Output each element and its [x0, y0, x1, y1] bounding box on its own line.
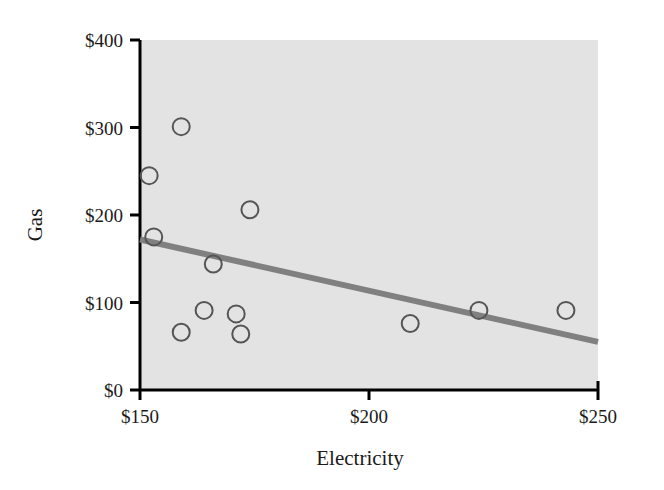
x-tick-label: $250 [579, 406, 617, 427]
y-tick-label: $300 [85, 118, 123, 139]
plot-area-background [140, 40, 598, 390]
y-tick-label: $400 [85, 30, 123, 51]
y-tick-label: $100 [85, 293, 123, 314]
scatter-chart: $0$100$200$300$400 $150$200$250 Gas Elec… [0, 0, 664, 490]
y-tick-label: $0 [104, 380, 123, 401]
y-axis-title: Gas [23, 209, 47, 242]
x-axis-title: Electricity [316, 446, 404, 470]
x-tick-label: $150 [121, 406, 159, 427]
chart-canvas: $0$100$200$300$400 $150$200$250 Gas Elec… [0, 0, 664, 490]
x-tick-label: $200 [350, 406, 388, 427]
y-tick-label: $200 [85, 205, 123, 226]
